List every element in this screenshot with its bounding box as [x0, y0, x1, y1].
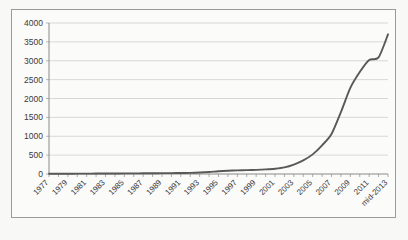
x-axis-label: 1977 [31, 178, 50, 197]
y-axis-label: 500 [29, 150, 43, 160]
x-axis-label: 2001 [257, 178, 276, 197]
data-series-line [49, 34, 388, 173]
x-axis-label: 1979 [50, 178, 69, 197]
x-axis-label: 1983 [88, 178, 107, 197]
y-axis-label: 2500 [24, 75, 43, 85]
x-axis-label: 1997 [220, 178, 239, 197]
y-axis-label: 0 [38, 169, 43, 179]
x-axis-label: 2005 [295, 178, 314, 197]
x-axis-label: 1999 [239, 178, 258, 197]
y-axis-label: 3000 [24, 56, 43, 66]
x-axis-label: 1993 [182, 178, 201, 197]
y-axis-label: 1000 [24, 131, 43, 141]
x-axis-label: 2003 [276, 178, 295, 197]
y-axis-label: 4000 [24, 18, 43, 28]
x-axis-label: 1995 [201, 178, 220, 197]
x-axis-labels-group: 1977197919811983198519871989199119931995… [31, 178, 389, 208]
x-axis-label: 1987 [126, 178, 145, 197]
chart-screenshot: 05001000150020002500300035004000 1977197… [0, 0, 408, 240]
x-axis-label: 1991 [163, 178, 182, 197]
y-axis-label: 1500 [24, 112, 43, 122]
gridlines-group [49, 23, 388, 155]
x-axis-label: 1981 [69, 178, 88, 197]
y-axis-label: 2000 [24, 94, 43, 104]
x-axis-label: 1989 [144, 178, 163, 197]
x-axis-label: 2007 [314, 178, 333, 197]
x-axis-label: 2009 [333, 178, 352, 197]
x-axis-label: 1985 [107, 178, 126, 197]
y-axis-label: 3500 [24, 37, 43, 47]
line-chart: 05001000150020002500300035004000 1977197… [0, 0, 408, 240]
y-axis-labels-group: 05001000150020002500300035004000 [24, 18, 43, 179]
